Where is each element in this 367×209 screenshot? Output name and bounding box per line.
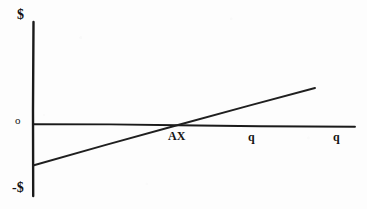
y-axis-positive-label: $: [17, 8, 24, 22]
graph-figure: $ o -$ AX q q: [0, 0, 367, 209]
x-axis-line: [33, 124, 355, 127]
y-axis-line: [33, 22, 34, 196]
origin-label: o: [15, 115, 21, 126]
y-axis-negative-label: -$: [12, 181, 24, 195]
x-axis-label-q-mid: q: [248, 131, 255, 143]
x-axis-label-q-right: q: [333, 131, 340, 143]
intersection-label-ax: AX: [168, 130, 185, 142]
plot-canvas: [0, 0, 367, 209]
